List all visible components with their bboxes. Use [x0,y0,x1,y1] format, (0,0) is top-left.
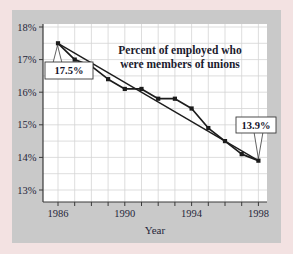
chart-title-line-1: Percent of employed who [118,44,242,57]
data-point-marker [240,152,244,156]
x-tick-label: 1990 [114,208,135,219]
data-point-marker [139,87,143,91]
callout-label: 17.5% [55,65,84,76]
y-tick-label: 17% [17,54,37,65]
data-point-marker [206,126,210,130]
y-tick-label: 16% [17,87,37,98]
x-tick-label: 1994 [181,208,203,219]
chart-title-line-2: were members of unions [120,58,240,70]
data-point-marker [56,41,60,45]
x-tick-label: 1986 [48,208,69,219]
data-point-marker [156,97,160,101]
data-point-marker [256,159,260,163]
page-background: 18%17%16%15%14%13%1986199019941998 Perce… [0,0,293,254]
data-point-marker [73,58,77,62]
callout-label: 13.9% [242,120,271,131]
union-membership-line-chart: 18%17%16%15%14%13%1986199019941998 Perce… [12,10,281,243]
x-tick-label: 1998 [248,208,269,219]
chart-panel: 18%17%16%15%14%13%1986199019941998 Perce… [12,10,281,243]
y-tick-label: 18% [17,22,37,33]
data-point-marker [190,106,194,110]
y-tick-label: 15% [17,119,37,130]
y-tick-label: 13% [17,185,37,196]
y-tick-label: 14% [17,152,37,163]
data-point-marker [106,77,110,81]
data-point-marker [173,97,177,101]
data-point-marker [123,87,127,91]
x-axis-title: Year [145,224,166,236]
data-point-marker [223,139,227,143]
